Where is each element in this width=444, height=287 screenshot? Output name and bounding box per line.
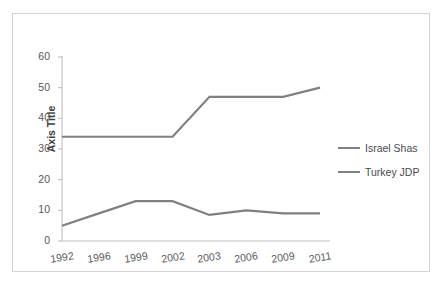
series-line-israel-shas <box>62 88 320 137</box>
y-tick-label: 60 <box>24 50 50 62</box>
y-tick-label: 40 <box>24 111 50 123</box>
y-tick-label: 10 <box>24 203 50 215</box>
y-tick-label: 0 <box>24 234 50 246</box>
legend-item-israel-shas[interactable]: Israel Shas <box>338 136 434 160</box>
legend-item-turkey-jdp[interactable]: Turkey JDP <box>338 160 434 184</box>
series-line-turkey-jdp <box>62 201 320 226</box>
y-tick-label: 20 <box>24 173 50 185</box>
legend-line-swatch-turkey-jdp <box>338 171 360 173</box>
legend-label-turkey-jdp: Turkey JDP <box>365 166 419 178</box>
legend-line-swatch-israel-shas <box>338 147 360 149</box>
chart-legend: Israel Shas Turkey JDP <box>338 136 434 184</box>
y-tick-label: 30 <box>24 142 50 154</box>
legend-label-israel-shas: Israel Shas <box>365 142 418 154</box>
y-tick-label: 50 <box>24 81 50 93</box>
